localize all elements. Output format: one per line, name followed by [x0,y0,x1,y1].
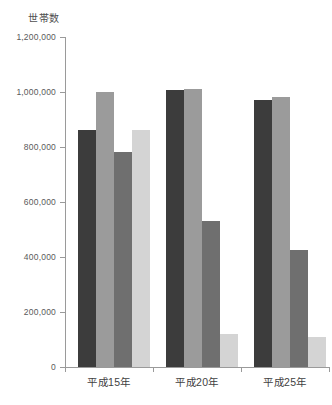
bar-g3-s2 [272,97,290,367]
y-tick-label-400000: 400,000 [24,252,56,262]
x-axis-label-0: 平成15年 [65,374,153,389]
x-axis-label-1: 平成20年 [153,374,241,389]
y-tick-label-0: 0 [51,362,56,372]
y-tick-label-600000: 600,000 [24,197,56,207]
bar-g2-s4 [220,334,238,367]
bar-g1-s2 [96,92,114,367]
x-axis-label-2: 平成25年 [241,374,329,389]
bar-g2-s3 [202,221,220,367]
bar-chart: 世帯数 0 200,000 400,000 600,000 800,000 1,… [0,0,332,405]
bar-g3-s3 [290,250,308,367]
bar-g1-s3 [114,152,132,367]
bar-group-heisei-15 [65,0,153,405]
bar-g3-s1 [254,100,272,367]
y-tick-label-200000: 200,000 [24,307,56,317]
bar-g2-s1 [166,90,184,367]
bar-g1-s1 [78,130,96,367]
bar-g2-s2 [184,89,202,367]
y-tick-label-800000: 800,000 [24,142,56,152]
y-tick-label-1200000: 1,200,000 [16,32,56,42]
plot-area: 0 200,000 400,000 600,000 800,000 1,000,… [0,0,332,405]
bar-g1-s4 [132,130,150,367]
bar-g3-s4 [308,337,326,367]
x-tick-end [329,367,330,372]
bar-group-heisei-20 [153,0,241,405]
y-tick-label-1000000: 1,000,000 [16,87,56,97]
bar-group-heisei-25 [241,0,329,405]
